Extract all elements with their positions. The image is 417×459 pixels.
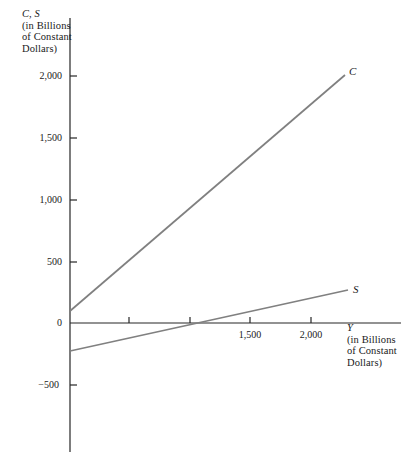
x-axis-variables: Y xyxy=(347,322,353,333)
chart-figure: C, S(in Billionsof ConstantDollars) Y(in… xyxy=(0,0,417,459)
x-axis-caption-line-3: Dollars) xyxy=(347,357,382,368)
series-label-c: C xyxy=(349,66,356,77)
y-axis-caption-line-2: of Constant xyxy=(22,31,72,42)
x-tick-label-2000: 2,000 xyxy=(288,330,334,340)
x-axis-caption: Y(in Billionsof ConstantDollars) xyxy=(347,322,397,368)
series-line-c xyxy=(70,75,345,311)
series-label-s: S xyxy=(353,284,359,295)
y-axis-caption-line-1: (in Billions xyxy=(22,20,71,31)
x-axis-caption-line-1: (in Billions xyxy=(347,334,396,345)
y-axis-caption: C, S(in Billionsof ConstantDollars) xyxy=(22,8,72,54)
y-tick-label-500: 500 xyxy=(16,257,62,267)
y-axis-variables: C, S xyxy=(22,8,40,19)
y-tick-label-minus500: −500 xyxy=(13,380,59,390)
y-axis-caption-line-3: Dollars) xyxy=(22,43,57,54)
y-tick-label-1500: 1,500 xyxy=(16,133,62,143)
series-line-s xyxy=(70,290,348,351)
x-tick-label-1500: 1,500 xyxy=(227,330,273,340)
y-tick-label-1000: 1,000 xyxy=(16,195,62,205)
y-tick-marks xyxy=(70,76,77,385)
y-tick-label-0: 0 xyxy=(16,318,62,328)
x-axis-caption-line-2: of Constant xyxy=(347,345,397,356)
y-tick-label-2000: 2,000 xyxy=(16,71,62,81)
